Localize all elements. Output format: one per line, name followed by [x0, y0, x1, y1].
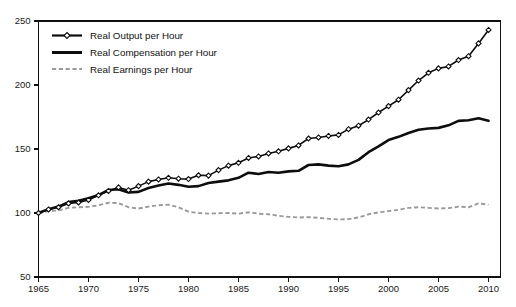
line-chart: 50100150200250 1965197019751980198519901… [0, 0, 516, 307]
data-point-marker [316, 135, 321, 140]
y-tick-label: 250 [15, 15, 31, 26]
x-axis-ticks: 1965197019751980198519901995200020052010 [28, 277, 499, 294]
data-point-marker [186, 177, 191, 182]
data-point-marker [136, 184, 141, 189]
x-tick-label: 1995 [328, 283, 349, 294]
data-point-marker [256, 154, 261, 159]
legend-item: Real Compensation per Hour [52, 47, 218, 58]
x-tick-label: 2000 [378, 283, 399, 294]
chart-legend: Real Output per HourReal Compensation pe… [52, 30, 218, 75]
y-tick-label: 50 [20, 271, 31, 282]
legend-label: Real Output per Hour [90, 30, 184, 41]
series-line [39, 203, 489, 220]
x-tick-label: 1980 [178, 283, 199, 294]
data-point-marker [226, 163, 231, 168]
y-tick-label: 200 [15, 79, 31, 90]
x-tick-label: 1965 [28, 283, 49, 294]
data-point-marker [176, 176, 181, 181]
x-tick-label: 1985 [228, 283, 249, 294]
series-real-earnings-per-hour [39, 203, 489, 220]
data-point-marker [276, 149, 281, 154]
data-point-marker [146, 179, 151, 184]
data-point-marker [326, 133, 331, 138]
x-tick-label: 2005 [428, 283, 449, 294]
x-tick-label: 1975 [128, 283, 149, 294]
chart-container: 50100150200250 1965197019751980198519901… [0, 0, 516, 307]
data-point-marker [156, 177, 161, 182]
x-tick-label: 2010 [478, 283, 499, 294]
y-axis-ticks: 50100150200250 [15, 15, 39, 282]
y-tick-label: 100 [15, 207, 31, 218]
data-point-marker [436, 66, 441, 71]
series-line [39, 118, 489, 213]
data-point-marker [236, 160, 241, 165]
x-tick-label: 1970 [78, 283, 99, 294]
x-tick-label: 1990 [278, 283, 299, 294]
data-point-marker [196, 173, 201, 178]
legend-label: Real Compensation per Hour [90, 47, 218, 58]
data-point-marker [246, 155, 251, 160]
data-point-marker [166, 175, 171, 180]
legend-item: Real Earnings per Hour [52, 64, 193, 75]
series-real-compensation-per-hour [39, 118, 489, 213]
legend-label: Real Earnings per Hour [90, 64, 193, 75]
data-point-marker [286, 146, 291, 151]
y-tick-label: 150 [15, 143, 31, 154]
legend-item: Real Output per Hour [52, 30, 184, 41]
plot-frame [39, 21, 501, 277]
legend-swatch-marker [64, 33, 70, 39]
data-point-marker [266, 151, 271, 156]
